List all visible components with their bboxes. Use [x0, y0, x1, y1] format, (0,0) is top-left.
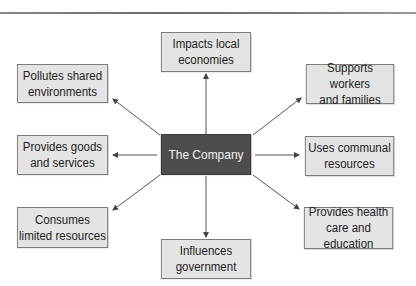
- node-influences-government: Influences government: [161, 239, 251, 279]
- node-provides-goods-and-services: Provides goods and services: [17, 135, 108, 175]
- node-label: Pollutes shared environments: [23, 68, 102, 100]
- edge-bottom-right: [253, 175, 299, 209]
- node-label: Uses communal resources: [308, 140, 390, 172]
- center-label: The Company: [168, 147, 243, 163]
- node-consumes-limited-resources: Consumes limited resources: [17, 207, 108, 248]
- node-label: Provides goods and services: [23, 139, 102, 171]
- node-provides-health-care-and-education: Provides health care and education: [304, 207, 393, 249]
- node-label: Provides health care and education: [305, 204, 392, 252]
- node-label: Impacts local economies: [172, 36, 239, 68]
- node-label: Consumes limited resources: [19, 212, 106, 244]
- edge-top-right: [253, 98, 301, 135]
- node-impacts-local-economies: Impacts local economies: [161, 32, 251, 72]
- node-pollutes-shared-environments: Pollutes shared environments: [17, 64, 108, 103]
- node-label: Supports workers and families: [307, 60, 393, 108]
- center-node-the-company: The Company: [161, 134, 251, 175]
- edge-top-left: [113, 99, 160, 135]
- node-uses-communal-resources: Uses communal resources: [305, 136, 394, 176]
- node-label: Influences government: [176, 243, 237, 275]
- edge-bottom-left: [113, 175, 160, 210]
- node-supports-workers-and-families: Supports workers and families: [306, 64, 394, 104]
